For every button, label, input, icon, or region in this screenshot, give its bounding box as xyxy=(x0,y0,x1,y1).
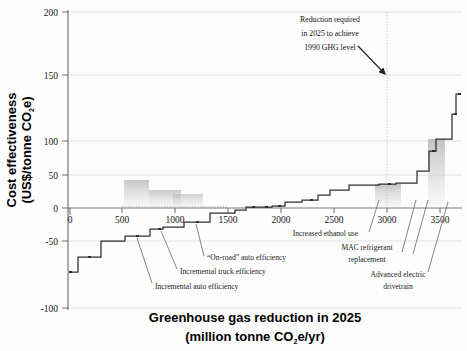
y-tick-100: 100 xyxy=(44,137,59,147)
highlight-incremental-auto xyxy=(124,180,149,208)
callout-mac-refrigerant-line1: MAC refrigerant xyxy=(341,243,393,252)
y-tick-200: 200 xyxy=(44,8,59,18)
x-tick-2000: 2000 xyxy=(272,215,291,225)
callout-incremental-truck-efficiency: Incremental truck efficiency xyxy=(180,267,266,276)
x-tick-500: 500 xyxy=(115,215,130,225)
callout-incremental-auto-efficiency: Incremental auto efficiency xyxy=(155,282,239,291)
x-tick-0: 0 xyxy=(68,215,73,225)
x-tick-1500: 1500 xyxy=(219,215,238,225)
callout-mac-refrigerant-line2: replacement xyxy=(348,255,386,264)
y-tick-neg50: -50 xyxy=(45,237,58,247)
x-axis-title-line1: Greenhouse gas reduction in 2025 xyxy=(149,310,361,325)
y-tick-150: 150 xyxy=(44,71,59,81)
x-axis-title-line2: (million tonne CO2e/yr) xyxy=(185,329,325,345)
y-tick-0: 0 xyxy=(53,204,58,214)
figure-background xyxy=(0,0,467,351)
callout-on-road-auto-efficiency: “On-road” auto efficiency xyxy=(207,253,286,262)
y-axis-title-line2-pre: (US$/tonne CO xyxy=(19,112,34,204)
y-axis-title-line1: Cost effectiveness xyxy=(4,93,19,208)
y-axis-title-line2: (US$/tonne CO2e) xyxy=(19,96,35,203)
chart-figure: 200 150 100 50 0 -50 -100 0 xyxy=(0,0,467,351)
x-axis-title-line2-post: e/yr) xyxy=(297,329,324,344)
annotation-line-3: 1990 GHG level xyxy=(304,43,356,52)
x-tick-3000: 3000 xyxy=(378,215,397,225)
callout-increased-ethanol-use: Increased ethanol use xyxy=(293,229,359,238)
x-axis-title-line2-pre: (million tonne CO xyxy=(185,329,293,344)
x-tick-3500: 3500 xyxy=(431,215,450,225)
chart-canvas: 200 150 100 50 0 -50 -100 0 xyxy=(0,0,467,351)
annotation-line-2: in 2025 to achieve xyxy=(301,29,359,38)
callout-advanced-electric-line1: Advanced electric xyxy=(370,270,426,279)
y-tick-neg100: -100 xyxy=(41,304,59,314)
highlight-onroad-auto xyxy=(173,194,203,208)
highlight-mac-refrigerant xyxy=(375,184,401,208)
y-axis-title-line2-post: e) xyxy=(19,96,34,108)
annotation-line-1: Reduction required xyxy=(300,15,360,24)
y-tick-50: 50 xyxy=(49,171,59,181)
callout-advanced-electric-line2: drivetrain xyxy=(383,282,413,291)
x-tick-1000: 1000 xyxy=(166,215,185,225)
x-tick-2500: 2500 xyxy=(325,215,344,225)
